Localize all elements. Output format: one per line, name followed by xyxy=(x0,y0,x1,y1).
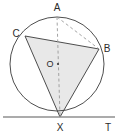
point-label-b: B xyxy=(104,43,111,54)
geometry-canvas: A C B O X T xyxy=(0,0,117,137)
geometry-figure: A C B O X T xyxy=(0,0,117,137)
center-point-dot xyxy=(57,63,59,65)
point-label-a: A xyxy=(54,2,61,13)
point-label-c: C xyxy=(12,28,19,39)
point-label-t: T xyxy=(105,122,111,133)
point-label-x: X xyxy=(57,122,64,133)
point-label-o: O xyxy=(46,59,53,69)
shaded-triangle-cbx xyxy=(25,36,99,117)
